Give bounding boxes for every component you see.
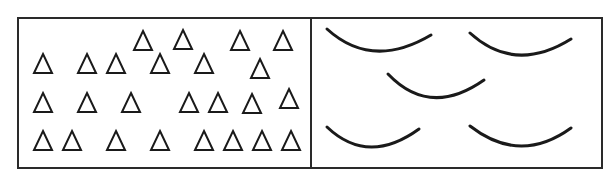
left-panel-triangles [34,30,300,150]
triangle-shape [34,93,52,112]
triangle-shape [180,93,198,112]
triangle-shape [251,59,269,78]
triangle-shape [122,93,140,112]
arc-shape [327,127,419,147]
triangle-shape [274,31,292,50]
arc-shape [327,29,431,51]
triangle-shape [34,131,52,150]
arc-shape [470,33,571,55]
triangle-shape [280,89,298,108]
triangle-shape [78,93,96,112]
pattern-figure [0,0,612,175]
triangle-shape [231,31,249,50]
triangle-shape [224,131,242,150]
triangle-shape [195,131,213,150]
triangle-shape [107,131,125,150]
triangle-shape [34,54,52,73]
triangle-shape [134,31,152,50]
triangle-shape [63,131,81,150]
triangle-shape [78,54,96,73]
arc-shape [470,126,571,146]
triangle-shape [151,131,169,150]
triangle-shape [282,131,300,150]
triangle-shape [195,54,213,73]
triangle-shape [243,94,261,113]
triangle-shape [107,54,125,73]
triangle-shape [209,93,227,112]
triangle-shape [151,54,169,73]
arc-shape [388,74,484,98]
triangle-shape [174,30,192,49]
triangle-shape [253,131,271,150]
right-panel-arcs [327,29,571,147]
figure-canvas [0,0,612,175]
